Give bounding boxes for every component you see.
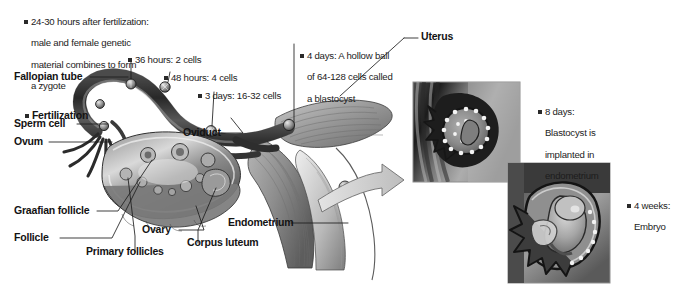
- bullet-icon: [164, 76, 168, 80]
- stage-text-implantation-line3: implanted in: [545, 150, 594, 161]
- label-ovary: Ovary: [142, 224, 171, 236]
- label-oviduct: Oviduct: [183, 127, 221, 139]
- stage-text-zygote-line4: a zygote: [31, 81, 66, 92]
- label-primary-follicles: Primary follicles: [86, 246, 164, 258]
- bullet-icon: [627, 204, 631, 208]
- stage-text-implantation-line1: 8 days:: [545, 106, 575, 117]
- label-graafian-follicle: Graafian follicle: [14, 205, 89, 217]
- stage-text-zygote-line1: 24-30 hours after fertilization:: [31, 16, 149, 27]
- stage-text-embryo-line2: Embryo: [634, 222, 666, 233]
- stage-label-blastocyst: 4 days: A hollow ball of 64-128 cells ca…: [290, 40, 393, 115]
- label-corpus-luteum: Corpus luteum: [187, 237, 259, 249]
- bullet-icon: [538, 110, 542, 114]
- stage-text-embryo-line1: 4 weeks:: [634, 200, 670, 211]
- label-uterus: Uterus: [421, 31, 453, 43]
- label-endometrium: Endometrium: [228, 217, 293, 229]
- stage-text-implantation-line4: endometrium: [545, 171, 599, 182]
- implantation-photo: [413, 82, 520, 182]
- bullet-icon: [128, 58, 132, 62]
- stage-text-zygote-line2: male and female genetic: [31, 38, 131, 49]
- stage-label-implantation: 8 days: Blastocyst is implanted in endom…: [528, 96, 599, 193]
- stage-text-blastocyst-line3: a blastocyst: [307, 94, 355, 105]
- label-follicle: Follicle: [14, 232, 49, 244]
- stage-label-16-32-cells: 3 days: 16-32 cells: [188, 80, 281, 112]
- label-fallopian-tube: Fallopian tube: [14, 71, 82, 83]
- bullet-icon: [198, 94, 202, 98]
- stage-text-implantation-line2: Blastocyst is: [545, 128, 596, 139]
- stage-label-embryo: 4 weeks: Embryo: [617, 190, 670, 244]
- anatomy-figure: 24-30 hours after fertilization: male an…: [0, 0, 679, 285]
- bullet-icon: [24, 20, 28, 24]
- label-ovum: Ovum: [14, 136, 43, 148]
- bullet-icon: [300, 54, 304, 58]
- stage-text-blastocyst-line1: 4 days: A hollow ball: [307, 50, 389, 61]
- label-sperm-cell: Sperm cell: [14, 118, 65, 130]
- stage-text-16-32-cells: 3 days: 16-32 cells: [205, 90, 281, 101]
- stage-text-blastocyst-line2: of 64-128 cells called: [307, 72, 393, 83]
